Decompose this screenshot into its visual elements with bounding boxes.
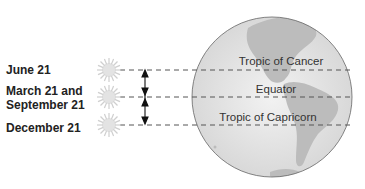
label-tropic-of-capricorn: Tropic of Capricorn — [219, 111, 316, 123]
sun-icon-december — [97, 113, 121, 137]
label-tropic-of-cancer: Tropic of Cancer — [239, 55, 324, 67]
solstice-diagram: Tropic of Cancer Equator Tropic of Capri… — [0, 0, 365, 189]
globe — [192, 17, 352, 179]
sun-icon-equinox — [97, 85, 121, 109]
label-equator: Equator — [256, 83, 296, 95]
sun-icon-june — [97, 58, 121, 82]
